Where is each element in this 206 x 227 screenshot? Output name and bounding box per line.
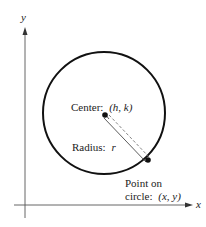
y-axis-arrow-icon bbox=[23, 27, 28, 35]
y-axis bbox=[23, 27, 28, 218]
center-point bbox=[102, 112, 108, 118]
point-on-circle bbox=[145, 157, 151, 163]
point-label-line1: Point on bbox=[125, 178, 162, 189]
x-axis-label: x bbox=[196, 199, 201, 210]
y-axis-label: y bbox=[21, 12, 26, 23]
x-axis-arrow-icon bbox=[185, 203, 193, 208]
circle-diagram: y x Center: (h, k) Radius: r Point on ci… bbox=[0, 0, 206, 227]
point-label-line2: circle: (x, y) bbox=[125, 191, 181, 202]
x-axis bbox=[14, 203, 193, 208]
center-label: Center: (h, k) bbox=[71, 102, 132, 113]
radius-line bbox=[104, 118, 146, 162]
radius-label: Radius: r bbox=[72, 142, 116, 153]
